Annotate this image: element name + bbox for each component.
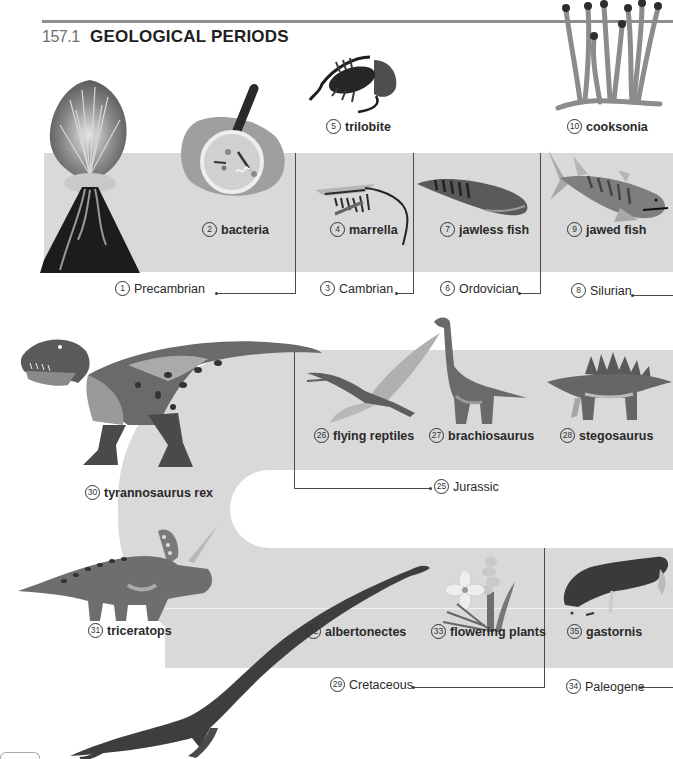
- connector-dot: [395, 292, 398, 295]
- cooksonia-plant-icon: [550, 0, 673, 115]
- item-label-flying-reptiles: 26flying reptiles: [314, 428, 414, 443]
- period-label-jurassic: 25Jurassic: [434, 479, 499, 494]
- pterosaur-icon: [305, 333, 445, 428]
- item-label-marrella: 4marrella: [330, 222, 398, 237]
- item-label-stegosaurus: 28stegosaurus: [560, 428, 653, 443]
- connector-cambrian: [396, 293, 414, 294]
- item-label-tyrannosaurus: 30tyrannosaurus rex: [85, 485, 213, 500]
- item-label-albertonectes: 32albertonectes: [306, 624, 406, 639]
- item-label-brachiosaurus: 27brachiosaurus: [429, 428, 534, 443]
- bacteria-petri-dish-icon: [176, 82, 291, 207]
- period-label-paleogene: 34Paleogene: [566, 679, 645, 694]
- connector-dot: [215, 292, 218, 295]
- marrella-icon: [305, 170, 415, 250]
- item-label-flowering-plants: 33flowering plants: [431, 624, 546, 639]
- item-label-gastornis: 35gastornis: [567, 624, 642, 639]
- jawless-fish-icon: [415, 172, 535, 222]
- period-label-cambrian: 3Cambrian: [320, 281, 393, 296]
- trilobite-icon: [310, 52, 400, 112]
- period-label-precambrian: 1Precambrian: [115, 281, 205, 296]
- connector-precambrian: [216, 293, 296, 294]
- item-label-jawed-fish: 9jawed fish: [567, 222, 646, 237]
- connector-dot: [429, 487, 432, 490]
- divider-ordovician: [540, 153, 541, 293]
- item-label-bacteria: 2bacteria: [202, 222, 269, 237]
- period-label-cretaceous: 29Cretaceous: [330, 677, 413, 692]
- connector-ordovician: [519, 293, 541, 294]
- gastornis-icon: [560, 555, 673, 620]
- connector-paleogene: [641, 687, 673, 688]
- stegosaurus-icon: [545, 352, 673, 422]
- page-title: GEOLOGICAL PERIODS: [90, 27, 289, 47]
- albertonectes-icon: [70, 560, 450, 759]
- section-number: 157.1: [42, 28, 80, 46]
- connector-silurian: [632, 295, 673, 296]
- divider-cretaceous: [544, 548, 545, 688]
- volcano-icon: [40, 75, 140, 275]
- page-tab: [0, 752, 40, 759]
- item-label-trilobite: 5trilobite: [326, 119, 391, 134]
- item-label-cooksonia: 10cooksonia: [567, 119, 648, 134]
- tyrannosaurus-icon: [18, 325, 323, 475]
- flowering-plants-icon: [437, 552, 527, 632]
- divider-precambrian: [295, 153, 296, 293]
- period-label-ordovician: 6Ordovician: [440, 281, 519, 296]
- period-label-silurian: 8Silurian: [571, 283, 632, 298]
- connector-jurassic: [294, 488, 430, 489]
- brachiosaurus-icon: [432, 316, 532, 426]
- item-label-jawless-fish: 7jawless fish: [440, 222, 529, 237]
